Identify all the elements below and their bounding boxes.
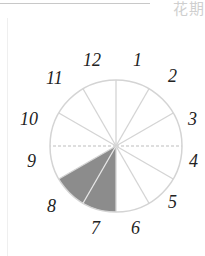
label-6: 6 <box>131 218 140 238</box>
label-4: 4 <box>189 151 198 171</box>
label-1: 1 <box>133 50 142 70</box>
label-5: 5 <box>168 192 177 212</box>
flowering-period-dial: 12 1 2 3 4 5 6 7 8 9 10 11 <box>0 0 205 256</box>
label-9: 9 <box>27 151 36 171</box>
label-11: 11 <box>46 68 63 88</box>
label-2: 2 <box>168 66 177 86</box>
label-7: 7 <box>91 218 101 238</box>
label-12: 12 <box>83 50 101 70</box>
label-3: 3 <box>187 109 197 129</box>
label-8: 8 <box>47 196 56 216</box>
label-10: 10 <box>20 109 38 129</box>
